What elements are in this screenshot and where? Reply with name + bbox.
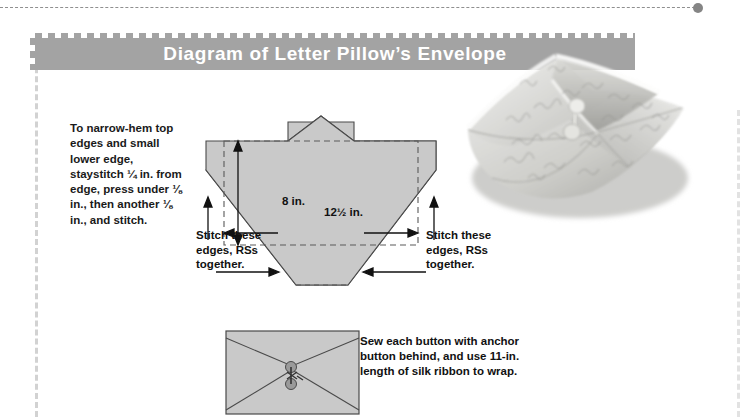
pillow-button-upper	[569, 99, 585, 114]
top-dashed-rule	[0, 7, 700, 8]
top-rule-end-dot	[693, 3, 703, 13]
pillow-photo-svg	[452, 28, 697, 228]
hem-instruction-text: To narrow-hem top edges and small lower …	[70, 121, 188, 228]
button-instruction-text: Sew each button with anchor button behin…	[360, 334, 550, 379]
width-dimension-label: 12½ in.	[324, 206, 363, 218]
diagram-page: Diagram of Letter Pillow’s Envelope To n…	[0, 0, 755, 417]
finished-envelope-front	[225, 330, 360, 415]
right-dashed-border	[737, 110, 740, 417]
stitch-callout-right: Stitch these edges, RSs together.	[426, 228, 526, 272]
stitch-callout-left: Stitch these edges, RSs together.	[196, 228, 296, 272]
envelope-figure-svg	[225, 330, 360, 415]
left-dashed-border	[35, 40, 38, 417]
pillow-button-lower	[564, 124, 581, 140]
letter-pillow-photograph	[452, 28, 697, 228]
height-dimension-label: 8 in.	[282, 195, 305, 207]
